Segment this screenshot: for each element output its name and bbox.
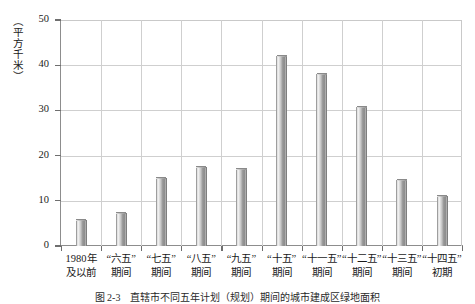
- bar-cap: [357, 106, 367, 108]
- bar: [116, 213, 127, 246]
- x-tick-mark-6: [302, 246, 303, 251]
- caption-number: 图 2-3: [95, 292, 121, 303]
- gridline-x-2: [141, 20, 142, 246]
- y-tick-label-30: 30: [19, 103, 49, 114]
- gridline-x-5: [262, 20, 263, 246]
- bar: [396, 180, 407, 246]
- bar: [316, 74, 327, 246]
- x-tick-mark-0: [61, 246, 62, 251]
- x-tick-mark-9: [422, 246, 423, 251]
- x-axis-label-line2: 初期: [416, 266, 468, 280]
- figure-container: （平方千米） 01020304050 1980年及以前“六五”期间“七五”期间“…: [0, 0, 475, 304]
- y-tick-label-20: 20: [19, 149, 49, 160]
- bar-cap: [277, 55, 287, 57]
- bar: [76, 220, 87, 246]
- bar-cap: [196, 166, 206, 168]
- bar: [437, 196, 448, 246]
- plot-area: [61, 20, 462, 246]
- x-tick-mark-5: [262, 246, 263, 251]
- bar-cap: [116, 212, 126, 214]
- y-tick-label-40: 40: [19, 58, 49, 69]
- bar-cap: [76, 219, 86, 221]
- gridline-x-9: [422, 20, 423, 246]
- gridline-x-4: [221, 20, 222, 246]
- gridline-x-6: [302, 20, 303, 246]
- x-axis-label: “十四五”初期: [416, 252, 468, 279]
- y-tick-label-10: 10: [19, 194, 49, 205]
- y-tick-label-50: 50: [19, 13, 49, 24]
- y-tick-mark-30: [55, 110, 61, 111]
- gridline-x-8: [382, 20, 383, 246]
- bar-cap: [437, 195, 447, 197]
- x-axis-label-line1: “十四五”: [416, 252, 468, 266]
- bar-cap: [156, 177, 166, 179]
- y-axis-title: （平方千米）: [4, 16, 22, 82]
- bar: [196, 167, 207, 246]
- x-tick-mark-4: [221, 246, 222, 251]
- bar: [356, 107, 367, 246]
- gridline-x-7: [342, 20, 343, 246]
- bar-cap: [236, 168, 246, 170]
- bar-cap: [317, 73, 327, 75]
- x-tick-mark-10: [462, 246, 463, 251]
- x-tick-mark-1: [101, 246, 102, 251]
- caption-text: 直辖市不同五年计划（规划）期间的城市建成区绿地面积: [130, 292, 380, 303]
- y-tick-mark-10: [55, 200, 61, 201]
- y-tick-mark-50: [55, 19, 61, 20]
- x-tick-mark-7: [342, 246, 343, 251]
- x-tick-mark-3: [181, 246, 182, 251]
- plot-frame-right: [461, 20, 462, 246]
- x-tick-mark-8: [382, 246, 383, 251]
- gridline-x-3: [181, 20, 182, 246]
- y-tick-label-0: 0: [19, 239, 49, 250]
- bar: [236, 169, 247, 246]
- gridline-x-1: [101, 20, 102, 246]
- x-tick-mark-2: [141, 246, 142, 251]
- figure-caption: 图 2-3直辖市不同五年计划（规划）期间的城市建成区绿地面积: [0, 292, 475, 304]
- bar: [156, 178, 167, 246]
- bar-cap: [397, 179, 407, 181]
- y-tick-mark-40: [55, 65, 61, 66]
- y-tick-mark-20: [55, 155, 61, 156]
- bar: [276, 56, 287, 246]
